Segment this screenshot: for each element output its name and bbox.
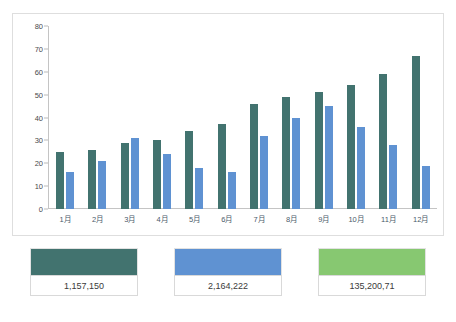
- x-axis-tick-label: 12月: [405, 213, 437, 227]
- x-axis-tick-label: 2月: [81, 213, 113, 227]
- legend-item[interactable]: 135,200,71: [318, 248, 426, 296]
- bar[interactable]: [121, 143, 129, 209]
- legend-item[interactable]: 1,157,150: [30, 248, 138, 296]
- bar-group[interactable]: [114, 26, 146, 209]
- bar[interactable]: [163, 154, 171, 209]
- bar[interactable]: [292, 118, 300, 210]
- legend-item[interactable]: 2,164,222: [174, 248, 282, 296]
- bar[interactable]: [185, 131, 193, 209]
- bar[interactable]: [347, 85, 355, 209]
- y-axis-tick-mark: [44, 71, 48, 72]
- legend-color-swatch[interactable]: [30, 248, 138, 275]
- x-axis-tick-label: 11月: [372, 213, 404, 227]
- y-axis-tick-mark: [44, 209, 48, 210]
- bar[interactable]: [195, 168, 203, 209]
- y-axis-tick-label: 10: [13, 182, 43, 191]
- y-axis-tick-label: 70: [13, 44, 43, 53]
- bar[interactable]: [422, 166, 430, 209]
- bar-series-container: [49, 26, 437, 209]
- x-axis-tick-label: 6月: [211, 213, 243, 227]
- legend-item-label: 135,200,71: [318, 275, 426, 296]
- bar[interactable]: [325, 106, 333, 209]
- y-axis-tick-label: 80: [13, 22, 43, 31]
- y-axis-tick-label: 60: [13, 67, 43, 76]
- bar-group[interactable]: [275, 26, 307, 209]
- y-axis-tick-mark: [44, 117, 48, 118]
- bar[interactable]: [56, 152, 64, 209]
- legend-color-swatch[interactable]: [318, 248, 426, 275]
- bar[interactable]: [250, 104, 258, 209]
- x-axis-tick-label: 9月: [308, 213, 340, 227]
- bar-group[interactable]: [372, 26, 404, 209]
- bar-group[interactable]: [243, 26, 275, 209]
- chart-plot-area: 80706050403020100 1月2月3月4月5月6月7月8月9月10月1…: [13, 14, 443, 235]
- x-axis-tick-label: 4月: [146, 213, 178, 227]
- bar[interactable]: [412, 56, 420, 209]
- bar[interactable]: [379, 74, 387, 209]
- legend-color-swatch[interactable]: [174, 248, 282, 275]
- bar[interactable]: [66, 172, 74, 209]
- bar[interactable]: [357, 127, 365, 209]
- x-axis-labels: 1月2月3月4月5月6月7月8月9月10月11月12月: [49, 213, 437, 227]
- legend-item-label: 2,164,222: [174, 275, 282, 296]
- bar[interactable]: [282, 97, 290, 209]
- y-axis-tick-mark: [44, 94, 48, 95]
- bar-group[interactable]: [405, 26, 437, 209]
- y-axis-tick-label: 0: [13, 205, 43, 214]
- x-axis-tick-label: 1月: [49, 213, 81, 227]
- bar-group[interactable]: [340, 26, 372, 209]
- bar[interactable]: [131, 138, 139, 209]
- bar-group[interactable]: [81, 26, 113, 209]
- bar[interactable]: [228, 172, 236, 209]
- bar[interactable]: [98, 161, 106, 209]
- y-axis-tick-label: 40: [13, 113, 43, 122]
- legend-item-label: 1,157,150: [30, 275, 138, 296]
- y-axis-tick-mark: [44, 186, 48, 187]
- y-axis-tick-label: 20: [13, 159, 43, 168]
- x-axis-tick-label: 3月: [114, 213, 146, 227]
- x-axis-tick-label: 7月: [243, 213, 275, 227]
- bar-group[interactable]: [49, 26, 81, 209]
- bar-group[interactable]: [146, 26, 178, 209]
- bar[interactable]: [389, 145, 397, 209]
- y-axis-tick-mark: [44, 163, 48, 164]
- x-axis-tick-label: 5月: [178, 213, 210, 227]
- y-axis-tick-mark: [44, 140, 48, 141]
- legend: 1,157,1502,164,222135,200,71: [12, 248, 444, 310]
- bar[interactable]: [315, 92, 323, 209]
- bar[interactable]: [153, 140, 161, 209]
- x-axis-tick-label: 10月: [340, 213, 372, 227]
- x-axis-tick-label: 8月: [275, 213, 307, 227]
- bar-chart-panel: 80706050403020100 1月2月3月4月5月6月7月8月9月10月1…: [12, 13, 444, 236]
- screen-root: 80706050403020100 1月2月3月4月5月6月7月8月9月10月1…: [0, 0, 456, 322]
- y-axis-tick-label: 30: [13, 136, 43, 145]
- y-axis-tick-label: 50: [13, 90, 43, 99]
- y-axis-tick-mark: [44, 26, 48, 27]
- bar[interactable]: [260, 136, 268, 209]
- bar-group[interactable]: [211, 26, 243, 209]
- bar-group[interactable]: [178, 26, 210, 209]
- bar[interactable]: [218, 124, 226, 209]
- bar-group[interactable]: [308, 26, 340, 209]
- bar[interactable]: [88, 150, 96, 209]
- y-axis-tick-mark: [44, 48, 48, 49]
